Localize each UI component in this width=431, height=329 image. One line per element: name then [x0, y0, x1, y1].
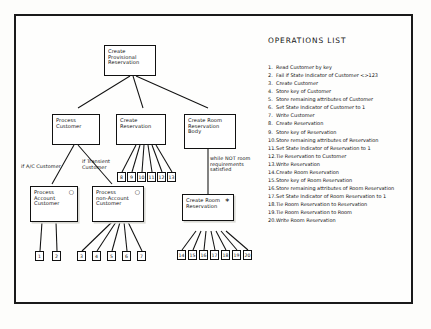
operation-item: 18.Tie Room Reservation to Reservation	[268, 200, 408, 208]
node-label: Process Customer	[56, 118, 96, 129]
node-label: Create Reservation	[120, 118, 162, 129]
operation-number: 2.	[268, 71, 276, 79]
leaf-node[interactable]: 10	[137, 172, 146, 182]
operation-number: 3.	[268, 79, 276, 87]
operation-number: 8.	[268, 119, 276, 127]
operation-number: 11.	[268, 144, 276, 152]
operation-number: 20.	[268, 216, 276, 224]
operation-text: Write Reservation	[276, 161, 320, 167]
node-label: Create Room Reservation Body	[188, 118, 232, 135]
leaf-node[interactable]: 7	[137, 251, 146, 261]
leaf-node[interactable]: 9	[127, 172, 136, 182]
operation-number: 15.	[268, 176, 276, 184]
operations-list: OPERATIONS LIST 1.Read Customer by key 2…	[268, 36, 408, 224]
leaf-node[interactable]: 4	[92, 251, 101, 261]
operation-text: Fail if State Indicator of Customer <>12…	[276, 72, 378, 78]
leaf-node[interactable]: 19	[232, 250, 241, 260]
leaf-node[interactable]: 15	[188, 250, 197, 260]
node-process-account-customer[interactable]: Process Account Customer ○	[30, 186, 78, 222]
operation-number: 12.	[268, 152, 276, 160]
node-process-customer[interactable]: Process Customer	[52, 114, 100, 145]
leaf-node[interactable]: 16	[199, 250, 208, 260]
operation-text: Store key of Customer	[276, 88, 331, 94]
operation-item: 13.Write Reservation	[268, 160, 408, 168]
operation-text: Set State Indicator of Room Reservation …	[276, 193, 386, 199]
leaf-node[interactable]: 20	[243, 250, 252, 260]
operation-text: Set State Indicator of Customer to 1	[276, 104, 365, 110]
operation-text: Store remaining attributes of Reservatio…	[276, 137, 378, 143]
node-label: Process non-Account Customer	[96, 190, 140, 207]
node-create-room-reservation-body[interactable]: Create Room Reservation Body	[184, 114, 236, 149]
operation-item: 7.Write Customer	[268, 111, 408, 119]
operation-text: Tie Room Reservation to Room	[276, 209, 352, 215]
leaf-node[interactable]: 13	[167, 172, 176, 182]
leaf-node[interactable]: 12	[157, 172, 166, 182]
leaf-node[interactable]: 11	[147, 172, 156, 182]
operation-item: 14.Create Room Reservation	[268, 168, 408, 176]
operation-item: 9.Store key of Reservation	[268, 128, 408, 136]
operation-number: 1.	[268, 63, 276, 71]
operation-text: Store remaining attributes of Customer	[276, 96, 373, 102]
operation-text: Store key of Room Reservation	[276, 177, 352, 183]
leaf-node[interactable]: 5	[107, 251, 116, 261]
node-create-room-reservation[interactable]: Create Room Reservation ∗	[182, 194, 234, 221]
operation-number: 9.	[268, 128, 276, 136]
node-create-reservation[interactable]: Create Reservation	[116, 114, 166, 145]
operation-number: 7.	[268, 111, 276, 119]
operation-item: 5.Store remaining attributes of Customer	[268, 95, 408, 103]
operation-item: 1.Read Customer by key	[268, 63, 408, 71]
leaf-node[interactable]: 2	[52, 251, 61, 261]
node-process-non-account-customer[interactable]: Process non-Account Customer ○	[92, 186, 144, 222]
operation-text: Create Room Reservation	[276, 169, 339, 175]
operation-number: 19.	[268, 208, 276, 216]
operations-list-title: OPERATIONS LIST	[268, 36, 408, 45]
operation-number: 18.	[268, 200, 276, 208]
operation-text: Tie Room Reservation to Reservation	[276, 201, 367, 207]
operation-text: Read Customer by key	[276, 64, 332, 70]
operation-item: 6.Set State Indicator of Customer to 1	[268, 103, 408, 111]
operation-item: 3.Create Customer	[268, 79, 408, 87]
operation-item: 15.Store key of Room Reservation	[268, 176, 408, 184]
operation-number: 4.	[268, 87, 276, 95]
label-while-not-room-requirements: while NOT room requirements satisfied	[210, 156, 250, 173]
operation-text: Write Room Reservation	[276, 217, 336, 223]
leaf-node[interactable]: 8	[117, 172, 126, 182]
operation-number: 16.	[268, 184, 276, 192]
leaf-node[interactable]: 14	[177, 250, 186, 260]
operation-text: Write Customer	[276, 112, 315, 118]
operation-number: 5.	[268, 95, 276, 103]
node-create-provisional-reservation[interactable]: Create Provisional Reservation	[104, 45, 156, 76]
node-label: Create Room Reservation	[186, 198, 230, 209]
leaf-node[interactable]: 17	[210, 250, 219, 260]
node-marker: ○	[135, 189, 140, 195]
screenshot-page: Create Provisional Reservation Process C…	[0, 0, 431, 329]
operation-number: 17.	[268, 192, 276, 200]
operation-item: 16.Store remaining attributes of Room Re…	[268, 184, 408, 192]
operation-item: 4.Store key of Customer	[268, 87, 408, 95]
operation-number: 14.	[268, 168, 276, 176]
operation-text: Create Customer	[276, 80, 318, 86]
operation-text: Store key of Reservation	[276, 129, 336, 135]
operation-number: 6.	[268, 103, 276, 111]
node-marker: ○	[69, 189, 74, 195]
operation-item: 10.Store remaining attributes of Reserva…	[268, 136, 408, 144]
label-if-ac-customer: if A/C Customer	[21, 164, 61, 170]
leaf-node[interactable]: 3	[77, 251, 86, 261]
operation-number: 13.	[268, 160, 276, 168]
leaf-node[interactable]: 1	[35, 251, 44, 261]
operation-item: 11.Set State Indicator of Reservation to…	[268, 144, 408, 152]
operation-item: 12.Tie Reservation to Customer	[268, 152, 408, 160]
diagram-frame: Create Provisional Reservation Process C…	[14, 14, 413, 304]
operation-text: Store remaining attributes of Room Reser…	[276, 185, 394, 191]
operation-text: Tie Reservation to Customer	[276, 153, 346, 159]
operation-item: 8.Create Reservation	[268, 119, 408, 127]
operation-item: 17.Set State Indicator of Room Reservati…	[268, 192, 408, 200]
node-label: Create Provisional Reservation	[108, 49, 152, 66]
leaf-node[interactable]: 6	[122, 251, 131, 261]
node-marker: ∗	[225, 197, 230, 203]
leaf-node[interactable]: 18	[221, 250, 230, 260]
operation-number: 10.	[268, 136, 276, 144]
operations-items: 1.Read Customer by key 2.Fail if State I…	[268, 63, 408, 224]
operation-item: 2.Fail if State Indicator of Customer <>…	[268, 71, 408, 79]
operation-item: 20.Write Room Reservation	[268, 216, 408, 224]
